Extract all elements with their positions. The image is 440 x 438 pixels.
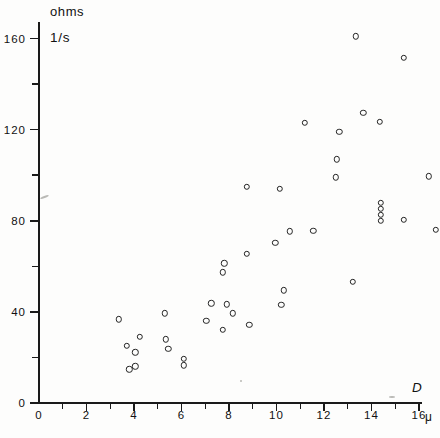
data-point bbox=[278, 301, 284, 307]
x-tick-label: 6 bbox=[178, 409, 185, 421]
data-point bbox=[360, 109, 366, 115]
data-point bbox=[132, 363, 138, 369]
x-tick-minor bbox=[300, 403, 301, 409]
data-point bbox=[400, 217, 406, 223]
y-tick-minor bbox=[32, 83, 39, 84]
y-tick-minor bbox=[32, 174, 39, 175]
data-point bbox=[165, 345, 171, 351]
y-axis-line bbox=[38, 22, 40, 404]
data-point bbox=[244, 251, 250, 257]
data-point bbox=[272, 240, 278, 246]
y-tick-label: 80 bbox=[11, 215, 26, 227]
data-point bbox=[333, 174, 339, 180]
data-point bbox=[132, 349, 138, 355]
y-tick-major bbox=[30, 129, 39, 131]
y-tick-major bbox=[30, 38, 39, 40]
y-axis-subtitle: 1/s bbox=[50, 30, 70, 45]
y-tick-major bbox=[30, 402, 39, 404]
x-axis-title: D bbox=[412, 380, 422, 395]
y-tick-label: 40 bbox=[11, 306, 26, 318]
x-tick-minor bbox=[62, 403, 63, 409]
paper-specks bbox=[0, 0, 440, 438]
y-tick-minor bbox=[32, 266, 39, 267]
y-tick-label: 0 bbox=[19, 397, 26, 409]
y-tick-label: 160 bbox=[4, 33, 26, 45]
x-tick-minor bbox=[110, 403, 111, 409]
data-point bbox=[353, 33, 359, 39]
x-axis-line bbox=[38, 402, 422, 404]
data-point bbox=[220, 269, 226, 275]
data-point bbox=[336, 129, 342, 135]
x-tick-label: 16 bbox=[412, 409, 427, 421]
x-tick-label: 2 bbox=[83, 409, 90, 421]
data-point bbox=[223, 301, 229, 307]
data-point bbox=[137, 334, 143, 340]
data-point bbox=[115, 316, 121, 322]
data-point bbox=[229, 310, 235, 316]
y-tick-major bbox=[30, 220, 39, 222]
data-point bbox=[203, 317, 209, 323]
data-point bbox=[162, 310, 168, 316]
y-tick-label: 120 bbox=[4, 124, 26, 136]
data-point bbox=[163, 336, 169, 342]
data-point bbox=[432, 226, 438, 232]
x-tick-label: 0 bbox=[35, 409, 42, 421]
data-point bbox=[208, 300, 214, 306]
data-point bbox=[302, 120, 308, 126]
y-tick-minor bbox=[32, 357, 39, 358]
y-tick-major bbox=[30, 311, 39, 313]
data-point bbox=[181, 362, 187, 368]
scatter-plot: ohms 1/s D μ 04080120160 0246810121416 bbox=[0, 0, 440, 438]
data-point bbox=[378, 218, 384, 224]
data-point bbox=[124, 343, 130, 349]
x-tick-minor bbox=[395, 403, 396, 409]
data-point bbox=[244, 184, 250, 190]
x-tick-label: 10 bbox=[269, 409, 284, 421]
data-point bbox=[286, 228, 292, 234]
x-tick-label: 12 bbox=[317, 409, 332, 421]
y-axis-title: ohms bbox=[50, 4, 84, 19]
data-point bbox=[280, 287, 286, 293]
data-point bbox=[400, 55, 406, 61]
data-point bbox=[246, 322, 252, 328]
data-point bbox=[334, 156, 340, 162]
data-point bbox=[377, 118, 383, 124]
data-point bbox=[349, 279, 355, 285]
x-tick-minor bbox=[252, 403, 253, 409]
x-tick-minor bbox=[205, 403, 206, 409]
x-tick-label: 14 bbox=[364, 409, 379, 421]
data-point bbox=[425, 173, 431, 179]
x-tick-label: 4 bbox=[130, 409, 137, 421]
data-point bbox=[277, 186, 283, 192]
data-point bbox=[221, 260, 227, 266]
data-point bbox=[181, 355, 187, 361]
x-tick-minor bbox=[347, 403, 348, 409]
data-point bbox=[310, 228, 316, 234]
x-tick-minor bbox=[157, 403, 158, 409]
x-tick-label: 8 bbox=[225, 409, 232, 421]
data-point bbox=[220, 326, 226, 332]
